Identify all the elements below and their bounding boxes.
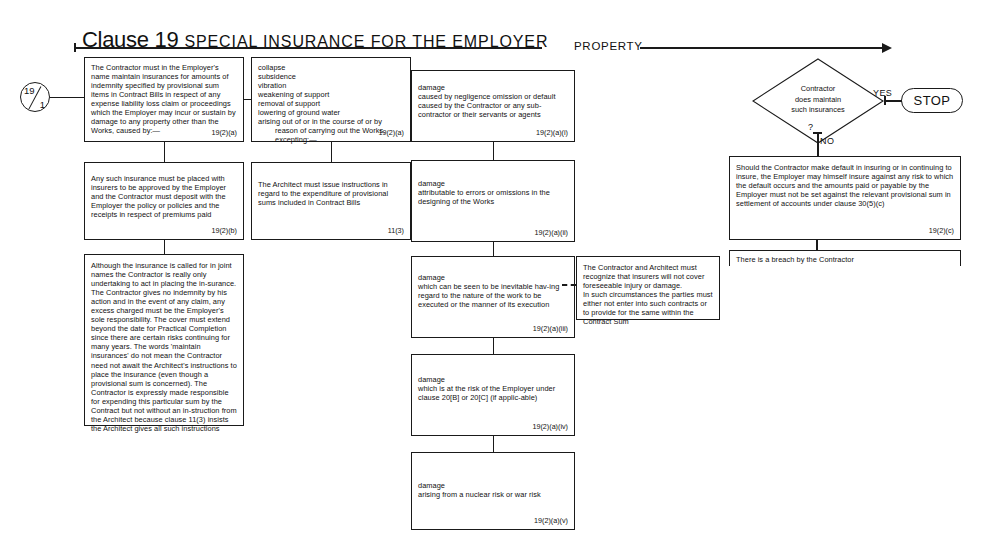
connector-b2-b5 [331,142,332,162]
box-text: There is a breach by the Contractor [736,255,955,264]
box-reference: 19(2)(a)(iv) [532,422,568,431]
box-reference: 19(2)(a)(ii) [534,228,568,237]
entry-node-19-1: 19 1 [20,82,50,112]
box-damage-employer-risk: damagewhich is at the risk of the Employ… [411,354,575,436]
box-employer-may-insure-default: Should the Contractor make default in in… [729,156,961,240]
box-text: Any such insurance must be placed with i… [91,174,238,219]
branch-no-cap [813,132,822,134]
page-title: Clause 19SPECIAL INSURANCE FOR THE EMPLO… [82,27,548,53]
box-text: damagewhich is at the risk of the Employ… [418,375,569,402]
decision-question-mark: ? [808,122,813,132]
box-architect-instructions-provisional-sums: The Architect must issue instructions in… [251,162,411,240]
connector-b3-b6 [493,142,494,160]
connector-b1-b4 [164,142,165,162]
box-reference: 19(2)(b) [211,226,237,235]
box-text: Should the Contractor make default in in… [736,163,955,208]
box-reference: 19(2)(c) [929,226,954,235]
spine-label-property: PROPERTY [572,40,645,52]
spine-line-left [75,47,542,49]
connector-b6-b8 [493,242,494,256]
box-reference: 19(2)(a)(v) [534,516,568,525]
box-commentary-insurers-foreseeable: The Contractor and Architect must recogn… [576,256,720,320]
decision-text: Contractor does maintain such insurances [752,84,884,116]
box-text: The Architect must issue instructions in… [258,180,405,207]
connector-b4-b7 [164,240,165,254]
flowchart-canvas: Clause 19SPECIAL INSURANCE FOR THE EMPLO… [0,0,993,543]
box-reference: 11(3) [388,226,404,235]
box-insurance-approved-insurers: Any such insurance must be placed with i… [84,162,244,240]
box-reference: 19(2)(a) [378,128,404,137]
connector-b8-b10 [493,338,494,354]
box-reference: 19(2)(a)(iii) [533,324,568,333]
box-text: damagearising from a nuclear risk or war… [418,481,569,499]
box-damage-errors-omissions-design: damageattributable to errors or omission… [411,160,575,242]
box-breach-by-contractor: There is a breach by the Contractor [729,250,961,266]
connector-dashed-b8-b9 [562,284,576,286]
box-text: Although the insurance is called for in … [91,261,238,433]
box-damage-inevitable: damagewhich can be seen to be inevitable… [411,256,575,338]
spine-left-cap [74,43,76,52]
box-reference: 19(2)(a) [211,128,237,137]
spine-line-right [640,47,883,49]
box-damage-nuclear-war-risk: damagearising from a nuclear risk or war… [411,452,575,530]
box-text: damagecaused by negligence omission or d… [418,83,569,119]
connector-b1-b2 [244,99,251,100]
node-bottom-number: 1 [40,99,45,110]
branch-yes-label: YES [873,88,892,98]
box-damage-negligence: damagecaused by negligence omission or d… [411,70,575,142]
branch-yes-line [884,100,902,102]
branch-no-label: NO [820,136,834,146]
box-text: The Contractor and Architect must recogn… [583,263,714,326]
box-contractor-maintain-insurances: The Contractor must in the Employer's na… [84,57,244,142]
connector-b10-b11 [493,436,494,452]
terminator-label: STOP [914,93,951,108]
box-text: damagewhich can be seen to be inevitable… [418,273,569,309]
spine-arrowhead [882,43,892,53]
connector-node-to-b1 [50,97,84,98]
node-top-number: 19 [24,85,35,96]
box-text: The Contractor must in the Employer's na… [91,63,238,135]
branch-no-line [817,132,819,156]
box-collapse-subsidence-list: collapsesubsidencevibrationweakening of … [251,57,411,142]
box-text: damageattributable to errors or omission… [418,179,569,206]
box-reference: 19(2)(a)(i) [536,128,568,137]
terminator-stop: STOP [901,88,963,113]
box-commentary-joint-names: Although the insurance is called for in … [84,254,244,426]
